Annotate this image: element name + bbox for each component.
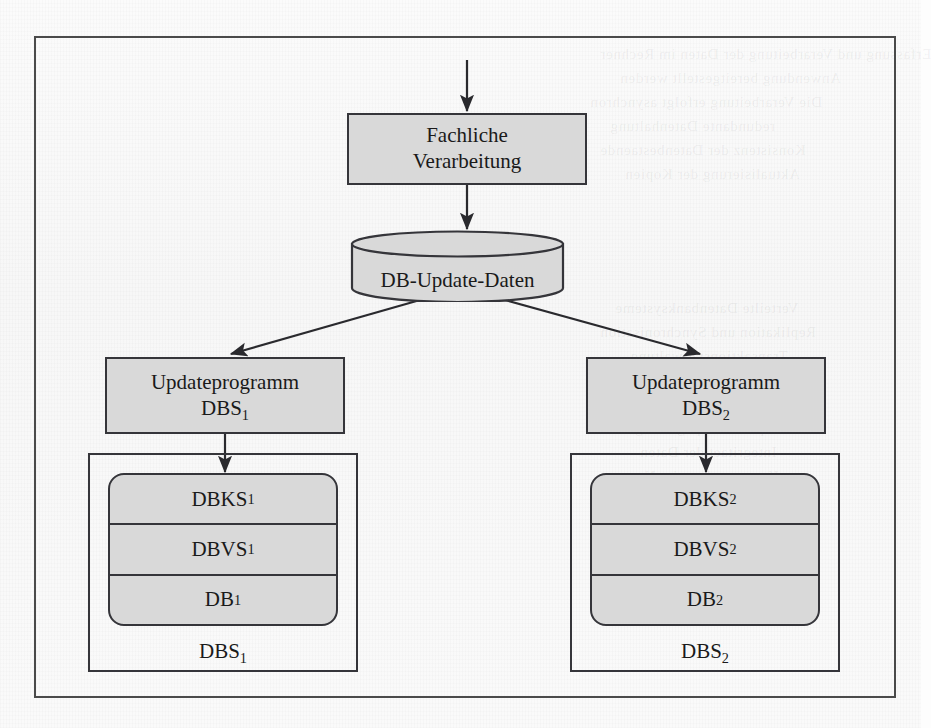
update-program-right-label-line2: DBS2 xyxy=(682,396,730,422)
system-right-layer-dbks-base: DBKS xyxy=(673,487,729,512)
system-left-layer-stack: DBKS1 DBVS1 DB1 xyxy=(108,473,338,626)
update-program-right-box: Updateprogramm DBS2 xyxy=(586,357,826,434)
update-program-left-subscript: 1 xyxy=(242,407,249,423)
system-right-layer-db: DB2 xyxy=(592,576,818,624)
system-left-layer-dbvs: DBVS1 xyxy=(110,525,336,575)
update-program-right-subscript: 2 xyxy=(723,407,730,423)
system-left-layer-dbks: DBKS1 xyxy=(110,475,336,525)
system-left-caption-subscript: 1 xyxy=(240,650,247,666)
update-program-left-label-line1: Updateprogramm xyxy=(151,370,299,396)
process-box: Fachliche Verarbeitung xyxy=(347,113,587,185)
system-left-layer-db-base: DB xyxy=(205,587,234,612)
cylinder-top xyxy=(352,232,563,257)
system-right-layer-dbvs-base: DBVS xyxy=(673,537,729,562)
system-right-layer-stack: DBKS2 DBVS2 DB2 xyxy=(590,473,820,626)
update-program-right-label-line1: Updateprogramm xyxy=(632,370,780,396)
update-program-left-base: DBS xyxy=(201,396,242,420)
process-label-line1: Fachliche xyxy=(426,123,508,149)
system-left-layer-dbvs-base: DBVS xyxy=(191,537,247,562)
system-left-layer-db: DB1 xyxy=(110,576,336,624)
process-label-line2: Verarbeitung xyxy=(413,149,521,175)
system-right-caption-subscript: 2 xyxy=(722,650,729,666)
system-right-layer-dbvs: DBVS2 xyxy=(592,525,818,575)
update-program-left-box: Updateprogramm DBS1 xyxy=(105,357,345,434)
system-left-layer-dbks-base: DBKS xyxy=(191,487,247,512)
update-program-right-base: DBS xyxy=(682,396,723,420)
system-right-layer-dbks: DBKS2 xyxy=(592,475,818,525)
update-program-left-label-line2: DBS1 xyxy=(201,396,249,422)
system-right-caption: DBS2 xyxy=(681,639,729,664)
system-right-layer-db-base: DB xyxy=(687,587,716,612)
system-left-caption-base: DBS xyxy=(199,639,240,663)
datastore-cylinder: DB-Update-Daten xyxy=(350,230,565,302)
system-left-caption: DBS1 xyxy=(199,639,247,664)
system-right-caption-base: DBS xyxy=(681,639,722,663)
